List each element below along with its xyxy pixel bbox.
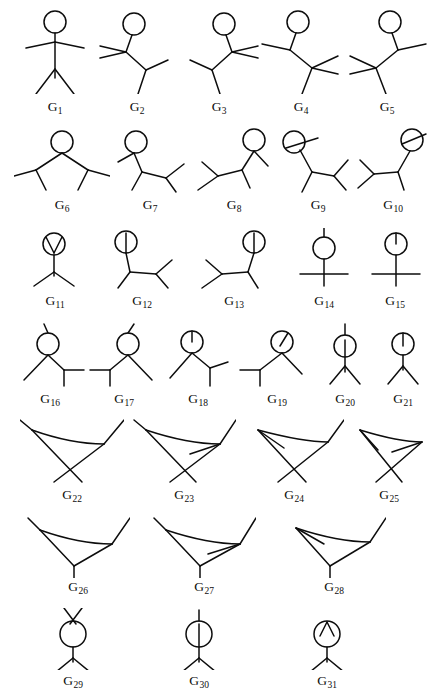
graph-edge [126,52,146,70]
figure-label: G31 [296,674,358,688]
graph-edge [74,544,112,566]
graph-edge [54,444,104,482]
figure-label-letter: G [68,579,78,594]
figure-label-letter: G [380,99,390,114]
figure-drawing [158,322,238,388]
graph-edge [142,172,166,178]
figure-label: G21 [376,392,430,406]
graph-edge [48,355,64,370]
figure-drawing [344,8,430,94]
node-circle [123,13,145,35]
graph-edge [258,430,328,442]
figure-g29: G29 [42,608,104,692]
figure-label-letter: G [227,197,237,212]
figure-label-index: 13 [234,300,244,310]
graph-edge [334,176,346,190]
figure-label: G2 [96,100,178,114]
figure-drawing [192,128,276,194]
figure-label: G4 [258,100,344,114]
graph-edge [290,33,296,50]
figure-label-letter: G [114,391,124,406]
figure-label-letter: G [267,391,277,406]
figure-label: G11 [14,294,96,308]
figure-label: G7 [108,198,192,212]
figure-g19: G19 [234,322,320,410]
figure-label-index: 22 [72,494,82,504]
figure-label-letter: G [224,293,234,308]
figure-label-index: 26 [78,586,88,596]
graph-edge [327,622,334,636]
node-circle [213,13,235,35]
figure-label: G29 [42,674,104,688]
figure-label: G20 [314,392,376,406]
graph-edge [242,151,254,170]
node-circle [283,131,305,153]
graph-edge [170,353,192,378]
graph-edge [240,518,256,544]
figure-label-letter: G [311,197,321,212]
graph-edge [28,518,40,530]
figure-drawing [234,322,320,388]
graph-edge [126,253,130,272]
figure-drawing [152,516,256,578]
figure-label-index: 19 [277,398,287,408]
figure-g31: G31 [296,608,358,692]
graph-edge [156,260,172,274]
figure-label: G28 [282,580,386,594]
figure-label-index: 25 [389,494,399,504]
graph-edge [258,430,306,482]
figure-label: G23 [132,488,236,502]
graph-edge [126,35,132,52]
figure-label-index: 17 [124,398,134,408]
graph-edge [20,420,32,430]
figure-g10: G10 [356,128,430,216]
figure-g27: G27 [152,516,256,598]
graph-edge [312,172,334,176]
figure-label: G14 [288,294,360,308]
figure-label-index: 4 [304,106,309,116]
graph-edge [112,518,130,544]
figure-g28: G28 [282,516,386,598]
figure-label: G1 [14,100,96,114]
graph-edge [296,528,324,544]
graph-edge [370,518,386,542]
figure-g22: G22 [20,418,124,506]
figure-label-letter: G [55,197,65,212]
figure-g6: G6 [14,128,110,216]
graph-edge [134,153,142,172]
graph-edge [376,68,386,94]
graph-edge [248,253,254,272]
graph-edge [192,353,210,368]
figure-g30: G30 [168,608,230,692]
figure-label-letter: G [317,673,327,688]
graph-edge [156,274,168,288]
figure-label: G24 [244,488,344,502]
graph-edge [312,68,338,74]
figure-label-letter: G [143,197,153,212]
figure-label-letter: G [188,391,198,406]
figure-g17: G17 [84,322,164,410]
graph-edge [392,442,422,452]
graph-edge [403,366,418,384]
graph-edge [130,272,156,274]
figure-g3: G3 [178,8,260,118]
graph-edge [212,70,220,94]
graph-edge [350,56,376,68]
graph-edge [232,52,258,58]
graph-edge [328,420,344,442]
figure-g25: G25 [348,418,430,506]
figure-label-index: 8 [237,204,242,214]
figure-label-letter: G [174,487,184,502]
graph-edge [312,56,338,68]
figure-label-index: 12 [142,300,152,310]
figure-label: G8 [192,198,276,212]
graph-edge [260,353,282,370]
graph-edge [182,658,199,670]
graph-edge [190,444,220,454]
figure-label-letter: G [130,99,140,114]
graph-edge [100,52,126,58]
figure-drawing [84,322,164,388]
figure-label-index: 31 [327,680,337,690]
graph-edge [190,60,212,70]
graph-edge [146,60,168,70]
